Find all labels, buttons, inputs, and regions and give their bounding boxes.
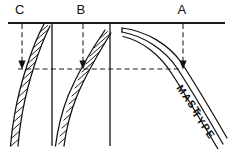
leader-a [179,24,186,70]
curve-c-hatching [11,18,57,149]
mast-type-label-line2: TYPE [190,108,218,141]
leader-c [18,24,25,70]
diagram-canvas: C B A MAST TYPE [0,0,230,149]
curve-b [56,24,117,149]
leader-b [79,24,86,70]
label-c: C [15,2,25,17]
curve-b-hatching [57,24,116,149]
label-a: A [177,2,186,17]
curve-a-edge-1 [122,28,227,138]
curve-c [11,18,57,149]
mast-type-label: MAST TYPE [173,82,220,141]
mast-type-diagram: C B A MAST TYPE [0,0,230,149]
label-b: B [76,2,85,17]
